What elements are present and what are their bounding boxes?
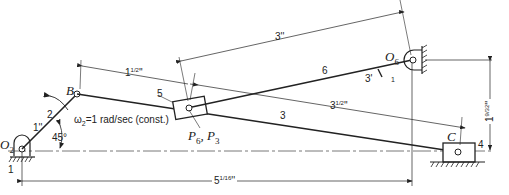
label-link2-length: 1''	[33, 123, 42, 133]
label-link-6: 6	[322, 66, 328, 76]
label-dim-o2-c: 51/16''	[212, 175, 237, 186]
label-ground-1-right: 1	[391, 76, 395, 83]
label-dim-p-c: 31/2''	[330, 100, 348, 111]
label-ground-1: 1	[8, 165, 14, 175]
label-dim-p-o6: 3''	[275, 32, 284, 42]
label-dim-o6-height: 19/32''	[484, 99, 495, 124]
label-o6-link: 3'	[365, 74, 372, 84]
link-2	[22, 94, 77, 149]
pivot-o6	[404, 45, 492, 186]
dim-p-o6	[181, 12, 402, 61]
label-link-5: 5	[157, 89, 163, 99]
label-dim-b-p: 11/2''	[125, 67, 143, 78]
label-link-3: 3	[280, 111, 286, 121]
link-3prime-arrow	[378, 69, 382, 77]
label-o6: O6	[385, 50, 399, 67]
link-6	[192, 60, 412, 107]
slider-c	[430, 143, 485, 167]
label-angle: 45°	[52, 133, 67, 143]
label-b: B	[66, 84, 74, 97]
label-o2: O2	[0, 138, 14, 155]
label-c: C	[447, 130, 456, 143]
label-omega: ω2=1 rad/sec (const.)	[74, 115, 169, 127]
label-link-2: 2	[47, 110, 53, 120]
omega-arrow	[50, 96, 68, 110]
label-p6-p3: P6, P3	[188, 129, 219, 146]
mechanism-drawing	[0, 0, 509, 195]
label-link-4: 4	[478, 140, 484, 150]
